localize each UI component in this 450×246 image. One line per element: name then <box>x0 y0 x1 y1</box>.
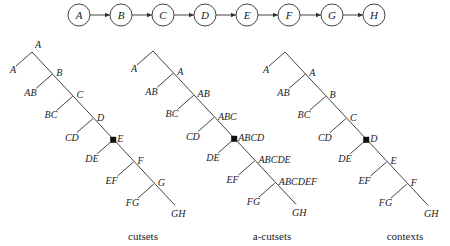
leaf-label: DE <box>337 153 351 164</box>
leaf-label: CD <box>186 131 201 142</box>
chain-node-f: F <box>278 4 300 26</box>
node-label: E <box>116 133 123 144</box>
main-branch <box>153 51 296 204</box>
node-label: A <box>308 67 316 78</box>
node-label: B <box>118 9 125 21</box>
node-label: C <box>350 112 357 123</box>
tree-node: BAB <box>23 67 62 98</box>
tree-node: ABBC <box>166 88 210 119</box>
node-label: F <box>410 177 418 188</box>
leaf-label: CD <box>65 132 80 143</box>
leaf-branch <box>57 96 73 110</box>
node-label: D <box>96 112 105 123</box>
tree-caption: a-cutsets <box>253 230 291 242</box>
tree-node: AAB <box>276 67 316 98</box>
node-label: B <box>56 67 62 78</box>
node-label: ABCDE <box>258 154 291 165</box>
node-label: AB <box>197 88 210 99</box>
variable-chain: ABCDEFGH <box>68 4 385 26</box>
marked-node-icon <box>231 136 237 142</box>
tree-node: AAB <box>144 66 184 97</box>
main-branch <box>32 52 175 205</box>
leaf-label: FG <box>246 196 260 207</box>
leaf-label: CD <box>318 132 333 143</box>
tree-node: DDE <box>337 133 378 164</box>
leaf-branch <box>371 162 387 176</box>
decomposition-trees: AABABCBCDCDEDEFEFGFGGHcutsetsAAABABBCABC… <box>9 39 439 242</box>
tree-node: GFG <box>125 177 165 208</box>
leaf-branch <box>239 161 255 175</box>
leaf-branch <box>77 119 93 133</box>
leaf-label: AB <box>144 86 157 97</box>
branch <box>137 51 153 65</box>
node-label: E <box>243 9 251 21</box>
tree-node: FEF <box>105 155 145 186</box>
chain-node-c: C <box>152 4 174 26</box>
leaf-branch <box>36 74 52 88</box>
leaf-branch <box>330 119 346 133</box>
chain-node-g: G <box>321 4 343 26</box>
leaf-branch <box>259 183 275 197</box>
node-label: G <box>158 177 165 188</box>
leaf-label: A <box>9 64 17 75</box>
tree-caption: contexts <box>387 230 424 242</box>
end-label: GH <box>171 208 186 219</box>
tree-node: CCD <box>318 112 357 143</box>
leaf-label: FG <box>125 197 139 208</box>
leaf-branch <box>178 95 194 109</box>
leaf-label: BC <box>45 109 58 120</box>
leaf-branch <box>391 184 407 198</box>
leaf-branch <box>198 118 214 132</box>
leaf-branch <box>157 73 173 87</box>
leaf-branch <box>138 184 154 198</box>
branch <box>16 52 32 66</box>
leaf-label: EF <box>226 174 240 185</box>
end-label: GH <box>424 208 439 219</box>
tree-node: ABCDEFFG <box>246 176 318 207</box>
node-label: ABC <box>217 111 237 122</box>
node-label: A <box>176 66 184 77</box>
end-label: GH <box>292 207 307 218</box>
node-label: ABCDEF <box>278 176 318 187</box>
chain-node-a: A <box>68 4 90 26</box>
node-label: D <box>200 9 209 21</box>
tree-node: DCD <box>65 112 105 143</box>
node-label: E <box>390 155 397 166</box>
node-label: C <box>77 89 84 100</box>
tree-caption: cutsets <box>128 230 158 242</box>
node-label: ABCD <box>237 132 265 143</box>
leaf-branch <box>289 74 305 88</box>
tree-contexts: AAABBBCCCDDDEEEFFFGGHcontexts <box>262 52 439 242</box>
tree-node: BBC <box>298 89 336 120</box>
node-label: H <box>369 9 379 21</box>
tree-node: FFG <box>378 177 418 208</box>
marked-node-icon <box>110 137 116 143</box>
tree-node: EEF <box>358 155 397 186</box>
node-label: B <box>330 89 336 100</box>
node-label: A <box>75 9 83 21</box>
leaf-branch <box>310 96 326 110</box>
leaf-label: A <box>262 64 270 75</box>
chain-node-e: E <box>236 4 258 26</box>
leaf-label: EF <box>358 175 372 186</box>
leaf-label: DE <box>84 153 98 164</box>
node-label: F <box>137 155 145 166</box>
leaf-label: A <box>130 63 138 74</box>
node-label: F <box>285 9 293 21</box>
diagram-canvas: ABCDEFGH AABABCBCDCDEDEFEFGFGGHcutsetsAA… <box>0 0 450 246</box>
leaf-label: BC <box>166 108 179 119</box>
leaf-label: DE <box>205 152 219 163</box>
node-label: C <box>159 9 167 21</box>
leaf-label: AB <box>276 87 289 98</box>
leaf-label: AB <box>23 87 36 98</box>
tree-a-cutsets: AAABABBCABCCDABCDDEABCDEEFABCDEFFGGHa-cu… <box>130 51 318 242</box>
chain-node-d: D <box>194 4 216 26</box>
tree-node: CBC <box>45 89 84 120</box>
chain-node-b: B <box>110 4 132 26</box>
apex-label: A <box>34 39 42 50</box>
leaf-label: EF <box>105 175 119 186</box>
branch <box>269 52 285 66</box>
node-label: G <box>328 9 336 21</box>
tree-node: EDE <box>84 133 123 164</box>
tree-cutsets: AABABCBCDCDEDEFEFGFGGHcutsets <box>9 39 186 242</box>
